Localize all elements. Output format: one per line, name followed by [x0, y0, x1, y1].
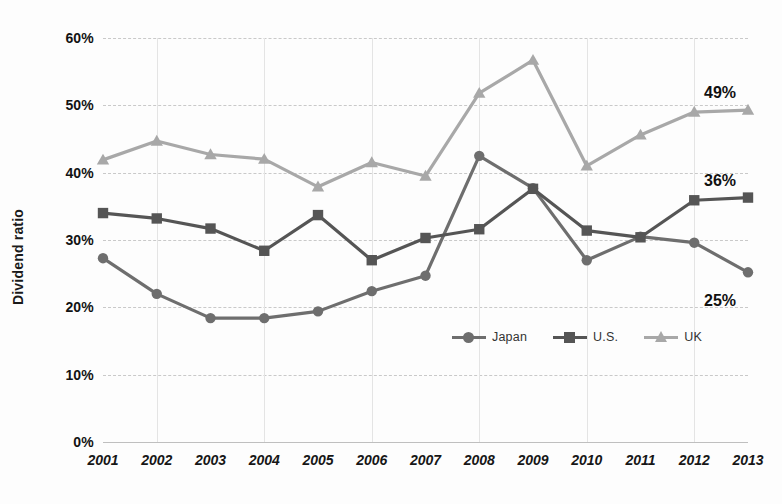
data-point-marker — [152, 213, 162, 223]
y-axis-tick-20pct: 20% — [40, 299, 94, 315]
data-point-marker — [366, 156, 378, 167]
y-axis-title: Dividend ratio — [6, 182, 30, 332]
data-point-marker — [582, 255, 592, 265]
legend-item-uk[interactable]: UK — [644, 330, 702, 344]
end-label-japan: 25% — [704, 292, 736, 310]
end-label-us: 36% — [704, 172, 736, 190]
y-axis-title-text: Dividend ratio — [10, 209, 26, 305]
series-line — [103, 60, 748, 187]
series-line — [103, 189, 748, 260]
data-point-marker — [473, 87, 485, 98]
end-label-uk: 49% — [704, 84, 736, 102]
data-point-marker — [420, 233, 430, 243]
y-axis-tick-40pct: 40% — [40, 165, 94, 181]
data-point-marker — [635, 232, 645, 242]
legend-square-icon — [553, 331, 587, 343]
series-us — [98, 184, 753, 266]
y-axis-tick-60pct: 60% — [40, 30, 94, 46]
data-point-marker — [259, 246, 269, 256]
y-axis-tick-10pct: 10% — [40, 367, 94, 383]
x-axis-tick-2011: 2011 — [625, 452, 655, 468]
legend-item-us[interactable]: U.S. — [553, 330, 618, 344]
legend-triangle-icon — [644, 331, 678, 343]
data-point-marker — [152, 289, 162, 299]
legend-label: Japan — [492, 330, 527, 344]
data-point-marker — [259, 313, 269, 323]
x-axis-tick-2004: 2004 — [249, 452, 280, 468]
x-axis-tick-2006: 2006 — [356, 452, 387, 468]
data-point-marker — [205, 223, 215, 233]
x-axis-tick-2003: 2003 — [195, 452, 226, 468]
legend-label: UK — [684, 330, 702, 344]
x-axis-tick-2002: 2002 — [141, 452, 172, 468]
gridline-horizontal — [103, 442, 748, 443]
data-point-marker — [582, 225, 592, 235]
y-axis-tick-30pct: 30% — [40, 232, 94, 248]
data-point-marker — [205, 313, 215, 323]
series-uk — [97, 54, 754, 191]
data-point-marker — [367, 255, 377, 265]
x-axis-tick-2001: 2001 — [87, 452, 118, 468]
data-point-marker — [743, 267, 753, 277]
x-axis-tick-2010: 2010 — [571, 452, 602, 468]
data-point-marker — [98, 208, 108, 218]
x-axis-tick-2007: 2007 — [410, 452, 441, 468]
x-axis-tick-2012: 2012 — [679, 452, 710, 468]
data-point-marker — [474, 224, 484, 234]
data-point-marker — [313, 210, 323, 220]
data-point-marker — [474, 151, 484, 161]
legend-label: U.S. — [593, 330, 618, 344]
dividend-ratio-line-chart: Dividend ratio 0%10%20%30%40%50%60% 2001… — [0, 0, 782, 504]
data-point-marker — [151, 135, 163, 146]
data-point-marker — [98, 253, 108, 263]
x-axis-tick-2009: 2009 — [517, 452, 548, 468]
data-point-marker — [367, 286, 377, 296]
data-point-marker — [528, 184, 538, 194]
data-point-marker — [527, 54, 539, 65]
y-axis-tick-0pct: 0% — [40, 434, 94, 450]
data-point-marker — [743, 192, 753, 202]
x-axis-tick-2005: 2005 — [302, 452, 333, 468]
legend-circle-icon — [452, 331, 486, 343]
chart-legend: JapanU.S.UK — [452, 330, 702, 344]
x-axis-tick-2008: 2008 — [464, 452, 495, 468]
data-point-marker — [313, 306, 323, 316]
y-axis-tick-50pct: 50% — [40, 97, 94, 113]
data-point-marker — [689, 195, 699, 205]
legend-item-japan[interactable]: Japan — [452, 330, 527, 344]
data-point-marker — [420, 270, 430, 280]
plot-area — [103, 38, 748, 442]
data-point-marker — [689, 237, 699, 247]
series-layer — [103, 38, 748, 442]
x-axis-tick-2013: 2013 — [732, 452, 763, 468]
